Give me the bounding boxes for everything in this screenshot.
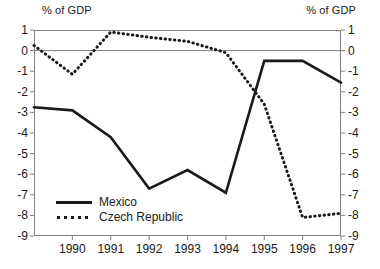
y-tick-label-left: -7 (6, 189, 28, 201)
y-tick-label-right: -2 (348, 86, 372, 98)
right-axis-title: % of GDP (306, 4, 356, 16)
legend-key-solid (56, 196, 92, 208)
y-tick-label-right: -4 (348, 127, 372, 139)
y-tick-label-left: 0 (6, 45, 28, 57)
legend-label-mexico: Mexico (99, 195, 137, 209)
left-axis-title: % of GDP (42, 4, 92, 16)
y-tick-label-left: -2 (6, 86, 28, 98)
legend-label-czech-republic: Czech Republic (99, 210, 183, 224)
legend-key-dotted (56, 211, 92, 223)
y-tick-label-right: 1 (348, 24, 372, 36)
chart-legend: Mexico Czech Republic (56, 194, 183, 224)
y-tick-label-right: -9 (348, 230, 372, 242)
y-tick-label-left: -4 (6, 127, 28, 139)
y-tick-label-right: -8 (348, 209, 372, 221)
y-tick-label-left: -5 (6, 148, 28, 160)
legend-item: Czech Republic (56, 209, 183, 224)
y-tick-label-left: 1 (6, 24, 28, 36)
y-tick-label-right: -7 (348, 189, 372, 201)
y-tick-label-right: -1 (348, 65, 372, 77)
chart-container: % of GDP % of GDP 10-1-2-3-4-5-6-7-8-9 1… (0, 0, 380, 269)
y-tick-label-left: -1 (6, 65, 28, 77)
y-tick-label-right: 0 (348, 45, 372, 57)
y-tick-label-right: -3 (348, 106, 372, 118)
y-tick-label-right: -6 (348, 168, 372, 180)
legend-item: Mexico (56, 194, 183, 209)
y-tick-label-left: -6 (6, 168, 28, 180)
y-tick-label-left: -9 (6, 230, 28, 242)
y-tick-label-left: -8 (6, 209, 28, 221)
x-tick-label: 1997 (319, 243, 363, 255)
y-tick-label-left: -3 (6, 106, 28, 118)
y-tick-label-right: -5 (348, 148, 372, 160)
